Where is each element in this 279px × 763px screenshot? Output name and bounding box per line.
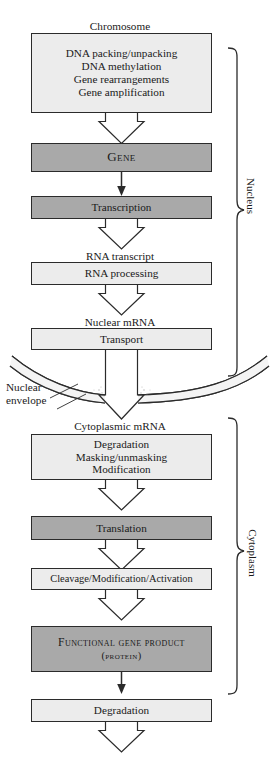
compartment-label-cytoplasm: Cytoplasm — [247, 529, 259, 577]
box-line: Gene rearrangements — [74, 73, 169, 86]
hollow-arrow-rna-processing-to-nuclear-mrna — [99, 285, 144, 315]
box-line: DNA packing/unpacking — [66, 47, 178, 60]
box-gene[interactable]: Gene — [31, 143, 212, 172]
box-rna-processing[interactable]: RNA processing — [31, 262, 212, 285]
box-line: Masking/unmasking — [76, 451, 167, 464]
box-line: Degradation — [94, 704, 149, 717]
hollow-arrow-translation-to-cleavage — [99, 540, 144, 570]
label-nuclear-envelope: Nuclear envelope — [6, 381, 76, 407]
box-chromosome-modifications[interactable]: DNA packing/unpacking DNA methylation Ge… — [31, 33, 212, 113]
box-line: Gene amplification — [78, 86, 164, 99]
hollow-arrow-chromosome-to-gene — [99, 113, 144, 144]
box-line: Transport — [100, 333, 143, 346]
hollow-arrow-transcription-to-rna-transcript — [99, 219, 144, 249]
label-nuclear-mrna: Nuclear mRNA — [0, 316, 240, 329]
box-protein-degradation[interactable]: Degradation — [31, 699, 212, 722]
compartment-label-nucleus: Nucleus — [245, 178, 257, 214]
box-line: (protein) — [101, 650, 141, 662]
nuclear-envelope-line-2: envelope — [6, 394, 76, 407]
solid-arrow-product-to-degradation — [117, 672, 126, 694]
label-chromosome: Chromosome — [0, 20, 240, 33]
box-line: RNA processing — [85, 267, 159, 280]
box-line: Degradation — [94, 438, 149, 451]
solid-arrow-gene-to-transcription — [117, 172, 126, 196]
box-transcription[interactable]: Transcription — [31, 196, 212, 219]
hollow-arrow-transport-through-pore — [99, 350, 144, 419]
box-cleavage-modification-activation[interactable]: Cleavage/Modification/Activation — [31, 568, 212, 590]
box-line: Modification — [92, 463, 150, 476]
label-cytoplasmic-mrna: Cytoplasmic mRNA — [0, 420, 240, 433]
box-line: Transcription — [92, 201, 152, 214]
hollow-arrow-degradation-terminal — [99, 722, 144, 752]
box-line: Translation — [96, 522, 147, 535]
box-line: Cleavage/Modification/Activation — [50, 573, 193, 585]
box-functional-gene-product[interactable]: Functional gene product (protein) — [31, 626, 212, 672]
box-mrna-fate[interactable]: Degradation Masking/unmasking Modificati… — [31, 434, 212, 480]
box-line: Functional gene product — [58, 636, 185, 649]
nuclear-envelope-line-1: Nuclear — [6, 381, 76, 394]
bracket-cytoplasm — [228, 418, 244, 694]
box-line: Gene — [107, 150, 135, 165]
hollow-arrow-cleavage-to-functional-gene-product — [99, 590, 144, 620]
box-translation[interactable]: Translation — [31, 516, 212, 540]
box-transport[interactable]: Transport — [31, 328, 212, 350]
label-rna-transcript: RNA transcript — [0, 250, 240, 263]
box-line: DNA methylation — [82, 60, 162, 73]
hollow-arrow-mrna-fate-to-translation — [99, 480, 144, 510]
